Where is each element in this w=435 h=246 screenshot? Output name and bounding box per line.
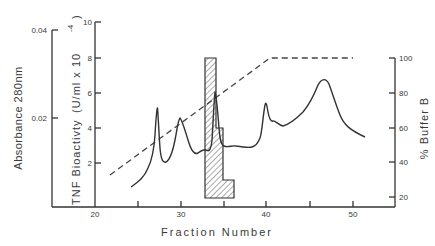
x-tick-50: 50: [349, 210, 358, 219]
buffer-tick-60: 60: [399, 124, 408, 133]
svg-text:(U/ml x 10: (U/ml x 10: [70, 53, 82, 113]
chromatography-chart: 0.04 0.02 Absorbance 280nm 10 8 6 4 2 TN…: [0, 0, 435, 246]
buffer-axis-title: % Buffer B: [418, 97, 430, 159]
x-axis: 20 30 40 50 Fraction Number: [52, 201, 395, 238]
svg-text:TNF Bioactivty: TNF Bioactivty: [70, 119, 82, 205]
abs-tick-004: 0.04: [31, 26, 47, 35]
bio-tick-8: 8: [88, 54, 93, 63]
bioactivity-axis: 10 8 6 4 2 TNF Bioactivty (U/ml x 10 -4 …: [66, 14, 101, 207]
absorbance-axis: 0.04 0.02 Absorbance 280nm: [12, 26, 58, 207]
x-tick-20: 20: [91, 210, 100, 219]
x-tick-40: 40: [262, 210, 271, 219]
bio-tick-4: 4: [88, 124, 93, 133]
buffer-b-gradient-line: [110, 58, 353, 175]
absorbance-axis-title: Absorbance 280nm: [12, 66, 24, 169]
bioactivity-axis-title: TNF Bioactivty (U/ml x 10 -4 ): [66, 14, 82, 205]
bio-tick-2: 2: [88, 159, 93, 168]
bio-tick-6: 6: [88, 89, 93, 98]
buffer-tick-40: 40: [399, 158, 408, 167]
abs-tick-002: 0.02: [31, 114, 47, 123]
absorbance-trace: [131, 80, 365, 187]
buffer-tick-20: 20: [399, 193, 408, 202]
bio-tick-10: 10: [83, 18, 92, 27]
x-tick-30: 30: [177, 210, 186, 219]
buffer-tick-100: 100: [399, 54, 413, 63]
buffer-axis: 100 80 60 40 20 % Buffer B: [389, 54, 430, 207]
svg-text:-4: -4: [66, 24, 75, 32]
svg-text:): ): [70, 14, 82, 19]
x-axis-title: Fraction Number: [161, 226, 273, 238]
buffer-tick-80: 80: [399, 89, 408, 98]
